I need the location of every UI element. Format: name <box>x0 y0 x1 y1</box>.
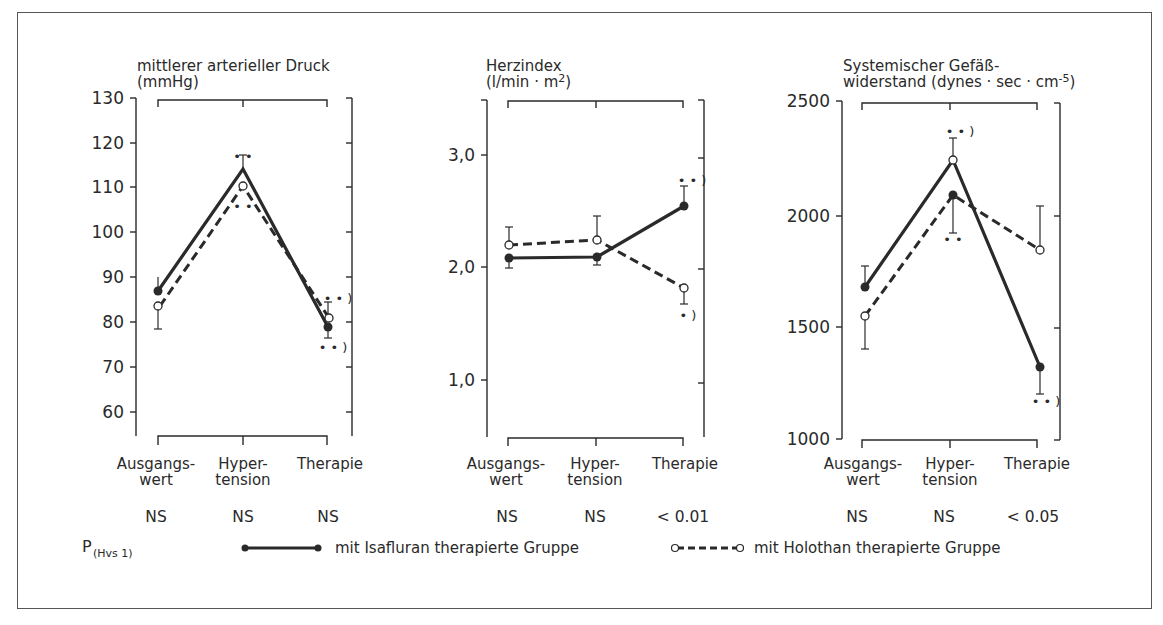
significance: NS <box>145 508 166 526</box>
category-label: wert <box>139 471 173 489</box>
ytick: 2500 <box>787 91 830 111</box>
significance: NS <box>232 508 253 526</box>
p-label: P <box>82 537 92 556</box>
chart-svr-unit: widerstand (dynes · sec · cm-5) <box>843 72 1075 91</box>
category-label: wert <box>846 471 880 489</box>
ytick: 2,0 <box>448 257 475 277</box>
significance: NS <box>317 508 338 526</box>
chart-svr-axes <box>836 101 1060 448</box>
sig-marker: • • ) <box>1032 394 1061 409</box>
ytick: 120 <box>92 133 124 153</box>
chart-ci-text: Herzindex (l/min · m2) 3,0 2,0 1,0 Ausga… <box>448 57 718 526</box>
chart-svr-errorbars <box>861 138 1044 394</box>
ytick: 1,0 <box>448 370 475 390</box>
category-label: tension <box>215 471 270 489</box>
ytick: 80 <box>102 312 124 332</box>
legend-halothan-label: mit Holothan therapierte Gruppe <box>754 539 1001 557</box>
ytick: 90 <box>102 267 124 287</box>
chart-map-unit: (mmHg) <box>137 73 199 91</box>
chart-ci-markers <box>505 202 689 293</box>
chart-svr-text: Systemischer Gefäß- widerstand (dynes · … <box>787 57 1076 526</box>
category-label: tension <box>567 471 622 489</box>
sig-marker: • • <box>233 149 252 164</box>
chart-ci-axes <box>481 100 704 446</box>
chart-ci-errorbars <box>505 186 688 304</box>
sig-marker: • • <box>943 232 962 247</box>
significance: < 0.05 <box>1007 508 1059 526</box>
ytick: 2000 <box>787 206 830 226</box>
category-label: wert <box>489 471 523 489</box>
p-subscript: (Hvs 1) <box>93 547 133 560</box>
sig-marker: • • ) <box>324 291 353 306</box>
significance: < 0.01 <box>657 508 709 526</box>
chart-svr-markers <box>861 156 1045 372</box>
sig-marker: • • ) <box>678 173 707 188</box>
legend-isofluran: mit Isafluran therapierte Gruppe <box>242 539 579 557</box>
chart-ci-unit: (l/min · m2) <box>486 72 571 91</box>
sig-marker: • • ) <box>319 340 348 355</box>
sig-marker: • • ) <box>946 124 975 139</box>
ytick: 1000 <box>787 429 830 449</box>
chart-map-text: mittlerer arterieller Druck (mmHg) 130 1… <box>82 57 363 560</box>
ytick: 100 <box>92 222 124 242</box>
figure: mittlerer arterieller Druck (mmHg) 130 1… <box>0 0 1163 625</box>
category-label: Therapie <box>1003 455 1070 473</box>
ytick: 70 <box>102 357 124 377</box>
sig-marker: • ) <box>680 308 697 323</box>
legend: mit Isafluran therapierte Gruppe mit Hol… <box>242 539 1001 557</box>
category-label: Therapie <box>296 455 363 473</box>
ytick: 1500 <box>787 317 830 337</box>
ytick: 60 <box>102 402 124 422</box>
chart-map-isofluran-line <box>158 169 328 327</box>
legend-halothan: mit Holothan therapierte Gruppe <box>672 539 1001 557</box>
ytick: 3,0 <box>448 145 475 165</box>
ytick: 130 <box>92 88 124 108</box>
category-label: Therapie <box>651 455 718 473</box>
sig-marker: • • <box>233 199 252 214</box>
legend-isofluran-label: mit Isafluran therapierte Gruppe <box>335 539 579 557</box>
category-label: tension <box>922 471 977 489</box>
significance: NS <box>584 508 605 526</box>
significance: NS <box>933 508 954 526</box>
ytick: 110 <box>92 177 124 197</box>
significance: NS <box>496 508 517 526</box>
significance: NS <box>846 508 867 526</box>
